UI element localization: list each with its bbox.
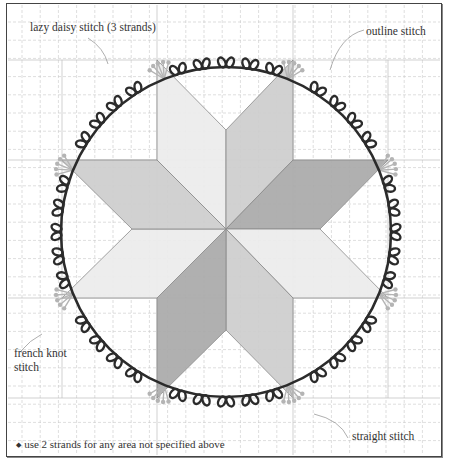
strands-note-text: use 2 strands for any area not specified… [24, 438, 224, 450]
label-french-knot-stitch: french knot stitch [14, 346, 67, 374]
label-outline-stitch: outline stitch [366, 24, 426, 38]
label-lazy-daisy-stitch: lazy daisy stitch (3 strands) [30, 20, 156, 34]
bullet-icon: ◆ [16, 441, 21, 449]
label-straight-stitch: straight stitch [352, 429, 414, 443]
strands-note: ◆ use 2 strands for any area not specifi… [16, 437, 225, 452]
label-french-knot-line2: stitch [14, 360, 67, 374]
label-french-knot-line1: french knot [14, 346, 67, 360]
pattern-artwork [0, 0, 452, 465]
